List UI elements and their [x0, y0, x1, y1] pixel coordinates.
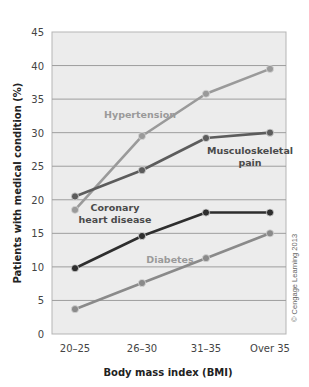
y-tick-label: 20 [31, 195, 44, 206]
x-axis-title: Body mass index (BMI) [103, 367, 232, 378]
x-tick-label: 31–35 [191, 343, 221, 354]
x-axis-ticks: 20–2526–3031–35Over 35 [60, 343, 290, 354]
data-point [138, 132, 145, 139]
data-point [71, 193, 78, 200]
y-tick-label: 30 [31, 128, 44, 139]
series-label: heart disease [79, 214, 152, 225]
y-tick-label: 25 [31, 161, 44, 172]
y-tick-label: 45 [31, 27, 44, 38]
data-point [202, 209, 209, 216]
data-point [71, 306, 78, 313]
series-label: Musculoskeletal [207, 145, 293, 156]
series-label: Hypertension [104, 109, 176, 120]
y-tick-label: 40 [31, 61, 44, 72]
copyright-credit: © Cengage Learning 2013 [290, 234, 299, 322]
series-label: Diabetes [146, 254, 194, 265]
data-point [138, 232, 145, 239]
y-tick-label: 35 [31, 94, 44, 105]
data-point [266, 129, 273, 136]
data-point [71, 265, 78, 272]
series-label: Coronary [91, 202, 141, 213]
data-point [138, 167, 145, 174]
data-point [266, 230, 273, 237]
y-tick-label: 5 [38, 295, 44, 306]
data-point [138, 279, 145, 286]
data-point [202, 134, 209, 141]
data-point [266, 65, 273, 72]
y-axis-title: Patients with medical condition (%) [12, 83, 23, 284]
data-point [266, 209, 273, 216]
y-tick-label: 10 [31, 262, 44, 273]
y-axis-ticks: 051015202530354045 [31, 27, 44, 340]
data-point [71, 206, 78, 213]
data-point [202, 255, 209, 262]
y-tick-label: 15 [31, 228, 44, 239]
y-tick-label: 0 [38, 329, 44, 340]
x-tick-label: Over 35 [250, 343, 290, 354]
x-tick-label: 20–25 [60, 343, 90, 354]
series-label: pain [238, 157, 261, 168]
data-point [202, 90, 209, 97]
line-chart: 051015202530354045 20–2526–3031–35Over 3… [0, 0, 309, 387]
x-tick-label: 26–30 [127, 343, 157, 354]
